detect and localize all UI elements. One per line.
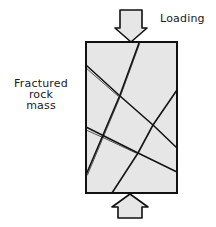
bottom-loading-arrow-icon xyxy=(112,194,148,218)
top-loading-arrow-icon xyxy=(115,10,147,42)
fractured-rock-mass-label: Fractured rock mass xyxy=(10,78,72,111)
mass-label-line-3: mass xyxy=(10,100,72,111)
loading-label: Loading xyxy=(160,13,205,24)
diagram-canvas xyxy=(0,0,216,227)
